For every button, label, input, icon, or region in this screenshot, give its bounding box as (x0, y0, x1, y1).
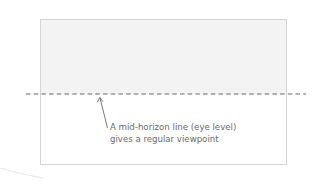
caption-line-1: A mid-horizon line (eye level) (110, 121, 236, 133)
arrow-up-icon (97, 97, 107, 128)
page-curve-line (0, 168, 42, 178)
diagram-overlay (0, 0, 319, 181)
annotation-caption: A mid-horizon line (eye level) gives a r… (110, 121, 236, 145)
caption-line-2: gives a regular viewpoint (110, 133, 236, 145)
